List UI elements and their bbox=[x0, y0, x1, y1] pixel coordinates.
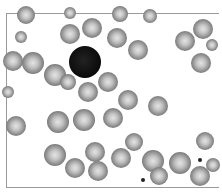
red-blood-cell bbox=[128, 40, 148, 60]
red-blood-cell bbox=[103, 108, 123, 128]
red-blood-cell bbox=[112, 6, 128, 22]
blood-smear-image bbox=[0, 0, 222, 193]
red-blood-cell bbox=[17, 6, 35, 24]
red-blood-cell bbox=[22, 52, 44, 74]
lymphocyte-nucleus bbox=[69, 46, 101, 78]
red-blood-cell bbox=[3, 51, 23, 71]
red-blood-cell bbox=[118, 90, 138, 110]
platelet bbox=[141, 178, 145, 182]
red-blood-cell bbox=[88, 161, 108, 181]
red-blood-cell bbox=[148, 96, 168, 116]
red-blood-cell bbox=[196, 132, 214, 150]
red-blood-cell bbox=[143, 9, 157, 23]
red-blood-cell bbox=[98, 72, 118, 92]
red-blood-cell bbox=[15, 31, 27, 43]
red-blood-cell bbox=[78, 82, 98, 102]
red-blood-cell bbox=[206, 158, 220, 172]
red-blood-cell bbox=[82, 18, 102, 38]
red-blood-cell bbox=[175, 31, 195, 51]
red-blood-cell bbox=[2, 86, 14, 98]
red-blood-cell bbox=[85, 142, 105, 162]
red-blood-cell bbox=[60, 24, 80, 44]
red-blood-cell bbox=[65, 158, 85, 178]
red-blood-cell bbox=[191, 53, 211, 73]
platelet bbox=[198, 158, 202, 162]
red-blood-cell bbox=[64, 7, 76, 19]
red-blood-cell bbox=[107, 28, 127, 48]
red-blood-cell bbox=[125, 133, 143, 151]
red-blood-cell bbox=[193, 19, 213, 39]
red-blood-cell bbox=[47, 111, 69, 133]
red-blood-cell bbox=[169, 152, 191, 174]
red-blood-cell bbox=[111, 148, 131, 168]
red-blood-cell bbox=[150, 167, 168, 185]
red-blood-cell bbox=[44, 144, 66, 166]
red-blood-cell bbox=[6, 116, 26, 136]
red-blood-cell bbox=[73, 109, 95, 131]
red-blood-cell bbox=[206, 39, 218, 51]
red-blood-cell bbox=[60, 74, 76, 90]
